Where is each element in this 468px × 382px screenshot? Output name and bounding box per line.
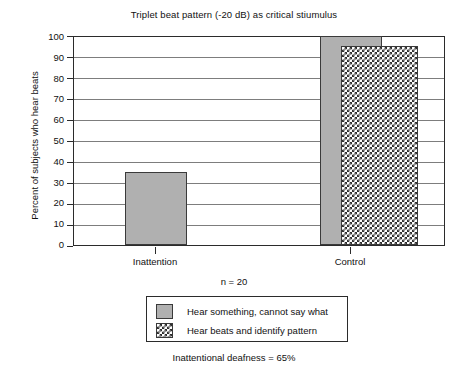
- sample-size-note: n = 20: [0, 276, 468, 287]
- legend-item-hear-beats[interactable]: Hear beats and identify pattern: [156, 321, 317, 339]
- y-axis-tick-labels: 100 90 80 70 60 50 40 30 20 10 0: [38, 0, 64, 382]
- legend: Hear something, cannot say what Hear bea…: [146, 296, 348, 342]
- x-tick-control: [350, 247, 351, 254]
- y-tick-label-100: 100: [38, 32, 64, 42]
- y-tick-label-20: 20: [38, 198, 64, 208]
- legend-label-hear-something: Hear something, cannot say what: [187, 306, 328, 317]
- y-tick-label-70: 70: [38, 94, 64, 104]
- x-tick-label-inattention: Inattention: [133, 256, 177, 267]
- legend-swatch-checker-icon: [156, 323, 173, 338]
- y-tick-0: [67, 246, 73, 247]
- x-tick-label-control: Control: [335, 256, 366, 267]
- y-tick-label-10: 10: [38, 219, 64, 229]
- legend-swatch-solid-icon: [156, 304, 173, 319]
- x-tick-inattention: [155, 247, 156, 254]
- y-tick-label-30: 30: [38, 178, 64, 188]
- footer-note: Inattentional deafness = 65%: [0, 352, 468, 363]
- y-tick-label-0: 0: [38, 240, 64, 250]
- y-tick-label-40: 40: [38, 157, 64, 167]
- bar-control-hear-beats[interactable]: [341, 46, 418, 245]
- plot-area: [73, 36, 445, 246]
- bar-inattention-hear-something[interactable]: [125, 172, 187, 246]
- y-tick-label-90: 90: [38, 53, 64, 63]
- y-tick-label-50: 50: [38, 136, 64, 146]
- legend-label-hear-beats: Hear beats and identify pattern: [187, 325, 317, 336]
- legend-item-hear-something[interactable]: Hear something, cannot say what: [156, 302, 328, 320]
- y-tick-label-60: 60: [38, 115, 64, 125]
- y-tick-label-80: 80: [38, 74, 64, 84]
